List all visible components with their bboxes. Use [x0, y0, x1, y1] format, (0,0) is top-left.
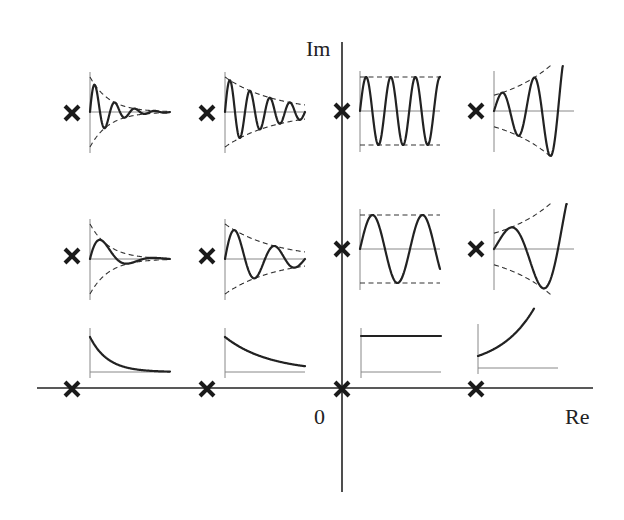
envelope-lower: [494, 265, 552, 296]
envelope-upper: [225, 224, 305, 252]
imag-axis-label: Im: [306, 36, 330, 61]
real-axis-label: Re: [565, 404, 589, 429]
pole-plot-diagram: Im Re 0: [0, 0, 624, 520]
envelope-upper: [494, 65, 552, 96]
envelope-upper: [494, 203, 552, 234]
origin-label: 0: [314, 404, 325, 429]
impulse-response-curve: [225, 80, 305, 138]
complex-plane-svg: Im Re 0: [0, 0, 624, 520]
impulse-response-curve: [478, 309, 534, 356]
envelope-lower: [494, 127, 552, 158]
envelope-lower: [225, 266, 305, 294]
impulse-response-curve: [494, 204, 567, 288]
impulse-response-curve: [225, 230, 305, 278]
impulse-response-curve: [225, 337, 305, 366]
envelope-lower: [90, 260, 170, 295]
envelope-upper: [225, 77, 305, 105]
impulse-response-curve: [90, 85, 170, 128]
envelope-upper: [90, 77, 170, 112]
impulse-response-curve: [90, 337, 170, 372]
